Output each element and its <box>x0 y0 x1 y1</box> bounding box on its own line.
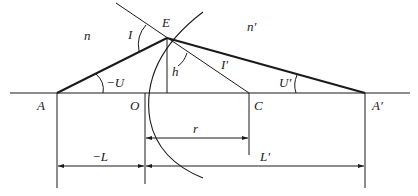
label-h: h <box>172 64 179 79</box>
label-r: r <box>193 121 199 136</box>
label-A: A <box>36 98 45 113</box>
label-L-prime: L′ <box>259 149 270 164</box>
label-minus-L: −L <box>92 149 108 164</box>
label-O: O <box>130 98 140 113</box>
label-A-prime: A′ <box>371 98 383 113</box>
refraction-diagram: n n′ E I I′ −U U′ h A O C A′ r −L L′ <box>0 0 418 196</box>
label-n: n <box>84 28 91 43</box>
label-E: E <box>161 15 170 30</box>
label-I-prime: I′ <box>220 57 228 72</box>
angle-arc-I <box>138 25 146 51</box>
label-I: I <box>127 27 133 42</box>
label-minus-U: −U <box>106 75 126 90</box>
label-C: C <box>254 98 263 113</box>
refracted-ray <box>167 38 365 93</box>
angle-arc-I-prime <box>178 53 187 66</box>
angle-arc-U-prime <box>295 75 297 93</box>
refracting-surface-arc <box>149 12 203 178</box>
surface-normal <box>116 3 249 93</box>
label-U-prime: U′ <box>279 75 291 90</box>
angle-arc-U <box>96 74 103 93</box>
label-n-prime: n′ <box>247 19 257 34</box>
